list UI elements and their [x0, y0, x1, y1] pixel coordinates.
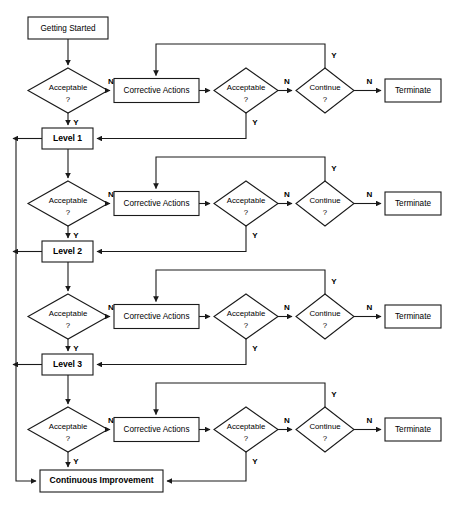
- decision-sublabel-3: ?: [66, 321, 71, 330]
- recheck-sublabel-3: ?: [244, 321, 249, 330]
- outcome-label-2: Level 2: [53, 246, 82, 256]
- recheck-label-4: Acceptable: [227, 422, 266, 431]
- continue-label-4: Continue: [309, 422, 340, 431]
- corrective-actions-label-2: Corrective Actions: [124, 199, 190, 208]
- decision-no-label-3: N: [108, 303, 114, 312]
- corrective-actions-label-1: Corrective Actions: [124, 86, 190, 95]
- recheck-label-3: Acceptable: [227, 309, 266, 318]
- continue-sublabel-4: ?: [323, 434, 328, 443]
- conn-recheck-yes-2: [97, 226, 246, 252]
- recheck-yes-label-1: Y: [252, 118, 258, 127]
- continue-label-1: Continue: [309, 83, 340, 92]
- continue-label-2: Continue: [309, 196, 340, 205]
- continue-sublabel-2: ?: [323, 208, 328, 217]
- decision-label-1: Acceptable: [49, 83, 88, 92]
- recheck-sublabel-1: ?: [244, 95, 249, 104]
- decision-label-4: Acceptable: [49, 422, 88, 431]
- decision-yes-label-3: Y: [73, 344, 79, 353]
- terminate-label-1: Terminate: [395, 86, 431, 95]
- continue-no-label-3: N: [367, 303, 373, 312]
- outcome-label-3: Level 3: [53, 359, 82, 369]
- continue-yes-label-3: Y: [331, 277, 337, 286]
- continue-no-label-4: N: [367, 416, 373, 425]
- flowchart-svg: Getting StartedAcceptable?Corrective Act…: [0, 0, 455, 511]
- decision-sublabel-2: ?: [66, 208, 71, 217]
- decision-no-label-1: N: [108, 77, 114, 86]
- conn-continue-yes-4: [156, 383, 325, 415]
- decision-yes-label-1: Y: [73, 118, 79, 127]
- recheck-sublabel-2: ?: [244, 208, 249, 217]
- recheck-no-label-3: N: [284, 303, 290, 312]
- conn-continue-yes-1: [156, 44, 325, 76]
- corrective-actions-label-4: Corrective Actions: [124, 425, 190, 434]
- conn-recheck-yes-3: [97, 339, 246, 365]
- continue-label-3: Continue: [309, 309, 340, 318]
- outcome-label-4: Continuous Improvement: [49, 475, 153, 485]
- decision-sublabel-4: ?: [66, 434, 71, 443]
- decision-no-label-4: N: [108, 416, 114, 425]
- continue-sublabel-1: ?: [323, 95, 328, 104]
- conn-recheck-yes-4: [167, 452, 246, 481]
- recheck-yes-label-3: Y: [252, 344, 258, 353]
- continue-yes-label-2: Y: [331, 164, 337, 173]
- decision-no-label-2: N: [108, 190, 114, 199]
- decision-sublabel-1: ?: [66, 95, 71, 104]
- terminate-label-3: Terminate: [395, 312, 431, 321]
- recheck-no-label-2: N: [284, 190, 290, 199]
- corrective-actions-label-3: Corrective Actions: [124, 312, 190, 321]
- recheck-yes-label-2: Y: [252, 231, 258, 240]
- recheck-sublabel-4: ?: [244, 434, 249, 443]
- decision-label-2: Acceptable: [49, 196, 88, 205]
- continue-sublabel-3: ?: [323, 321, 328, 330]
- continue-no-label-1: N: [367, 77, 373, 86]
- flowchart-canvas: Getting StartedAcceptable?Corrective Act…: [0, 0, 455, 511]
- outcome-label-1: Level 1: [53, 133, 82, 143]
- continue-yes-label-4: Y: [331, 390, 337, 399]
- conn-continue-yes-2: [156, 157, 325, 189]
- continue-yes-label-1: Y: [331, 51, 337, 60]
- conn-continue-yes-3: [156, 270, 325, 302]
- decision-yes-label-2: Y: [73, 231, 79, 240]
- terminate-label-4: Terminate: [395, 425, 431, 434]
- decision-yes-label-4: Y: [73, 457, 79, 466]
- recheck-yes-label-4: Y: [252, 457, 258, 466]
- continue-no-label-2: N: [367, 190, 373, 199]
- decision-label-3: Acceptable: [49, 309, 88, 318]
- recheck-no-label-4: N: [284, 416, 290, 425]
- recheck-no-label-1: N: [284, 77, 290, 86]
- recheck-label-1: Acceptable: [227, 83, 266, 92]
- recheck-label-2: Acceptable: [227, 196, 266, 205]
- flow-layer: Getting StartedAcceptable?Corrective Act…: [13, 17, 441, 492]
- start-label: Getting Started: [40, 24, 96, 33]
- terminate-label-2: Terminate: [395, 199, 431, 208]
- conn-recheck-yes-1: [97, 113, 246, 139]
